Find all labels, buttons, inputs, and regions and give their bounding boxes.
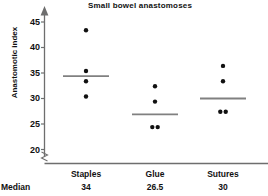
data-point	[156, 125, 160, 129]
data-point	[84, 94, 88, 98]
y-axis-arrowhead	[41, 6, 49, 16]
median-value-glue: 26.5	[120, 182, 190, 192]
data-point	[153, 84, 157, 88]
data-point	[218, 110, 222, 114]
median-row-title: Median	[1, 182, 30, 192]
data-group-sutures	[200, 64, 246, 114]
data-point	[153, 99, 157, 103]
data-point	[84, 28, 88, 32]
median-value-sutures: 30	[188, 182, 258, 192]
axis-break-icon	[42, 152, 48, 161]
category-label-staples: Staples	[51, 169, 121, 179]
data-point	[84, 79, 88, 83]
data-point	[224, 110, 228, 114]
data-group-staples	[63, 28, 109, 99]
category-label-glue: Glue	[120, 169, 190, 179]
data-point	[221, 64, 225, 68]
median-value-staples: 34	[51, 182, 121, 192]
data-point	[84, 69, 88, 73]
category-label-sutures: Sutures	[188, 169, 258, 179]
chart-figure: Small bowel anastomoses Anastomotic inde…	[0, 0, 268, 196]
plot-area	[0, 0, 268, 196]
data-group-glue	[132, 84, 178, 129]
data-point	[221, 79, 225, 83]
data-point	[150, 125, 154, 129]
